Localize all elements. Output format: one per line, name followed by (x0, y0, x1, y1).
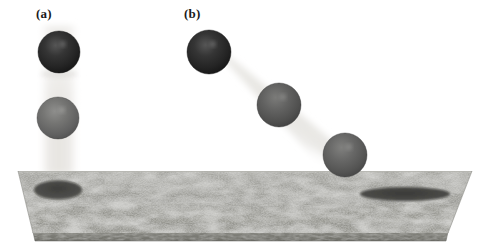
panel-b-spheres (187, 30, 367, 177)
panel-label-b: (b) (184, 6, 201, 22)
panel-label-a: (a) (36, 6, 52, 22)
figure-canvas (0, 0, 491, 251)
plate-front-edge (33, 232, 448, 241)
sphere-b1-specular (210, 41, 215, 46)
sphere-a2-specular (59, 107, 65, 113)
plate-top-face (18, 171, 472, 233)
sphere-a1-specular (60, 41, 65, 46)
sphere-b2-specular (280, 94, 286, 100)
sphere-b3-specular (346, 144, 352, 150)
figure-container: (a) (b) (0, 0, 491, 251)
granular-surface-plate (18, 171, 472, 241)
